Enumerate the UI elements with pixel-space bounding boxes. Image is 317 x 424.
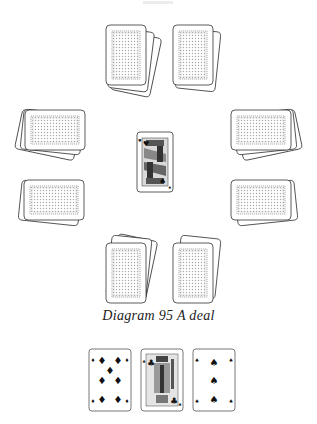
diagram-figure: ♥ ♠ ♥ ♠ ♦ ♦ ♦ ♦ ♦ ♦ ♦ ♦ ♦ ♦ ♦ bbox=[0, 0, 317, 424]
hand-bottom-left bbox=[106, 233, 158, 303]
hand-bottom-right bbox=[173, 235, 221, 303]
svg-text:♠: ♠ bbox=[229, 398, 233, 404]
svg-text:♦: ♦ bbox=[91, 357, 95, 363]
figure-caption: Diagram 95 A deal bbox=[0, 308, 317, 324]
center-face-card: ♥ ♠ ♥ ♠ bbox=[137, 132, 173, 192]
hand-top-left bbox=[106, 25, 162, 98]
svg-text:♦: ♦ bbox=[91, 398, 95, 404]
svg-text:♦: ♦ bbox=[98, 375, 107, 386]
svg-text:♣: ♣ bbox=[178, 402, 182, 407]
svg-text:♦: ♦ bbox=[98, 394, 107, 405]
hand-right-lower bbox=[231, 180, 298, 226]
hand-right-upper bbox=[231, 109, 303, 161]
svg-text:♠: ♠ bbox=[159, 177, 166, 186]
svg-text:♣: ♣ bbox=[147, 358, 155, 368]
card-three-of-spades: ♠ ♠ ♠ ♠ ♠ ♠ ♠ bbox=[193, 349, 235, 411]
svg-text:♠: ♠ bbox=[210, 394, 219, 405]
svg-text:♥: ♥ bbox=[143, 140, 149, 148]
card-jack-of-clubs: ♣ ♣ ♣ ♣ bbox=[141, 349, 183, 411]
hand-left-lower bbox=[18, 180, 84, 226]
svg-text:♥: ♥ bbox=[138, 138, 142, 143]
hand-top-right bbox=[173, 25, 221, 92]
svg-text:♠: ♠ bbox=[210, 357, 219, 368]
svg-text:♦: ♦ bbox=[114, 375, 123, 386]
hand-left-upper bbox=[14, 109, 85, 161]
card-seven-of-diamonds: ♦ ♦ ♦ ♦ ♦ ♦ ♦ ♦ ♦ ♦ ♦ bbox=[89, 349, 131, 411]
svg-text:♦: ♦ bbox=[125, 357, 129, 363]
svg-text:♣: ♣ bbox=[170, 396, 178, 406]
svg-text:♠: ♠ bbox=[195, 398, 199, 404]
svg-text:♠: ♠ bbox=[195, 357, 199, 363]
svg-text:♠: ♠ bbox=[168, 185, 172, 190]
deal-illustration: ♥ ♠ ♥ ♠ ♦ ♦ ♦ ♦ ♦ ♦ ♦ ♦ ♦ ♦ ♦ bbox=[0, 0, 317, 424]
svg-text:♦: ♦ bbox=[125, 398, 129, 404]
svg-text:♠: ♠ bbox=[210, 375, 219, 386]
svg-text:♦: ♦ bbox=[114, 394, 123, 405]
svg-text:♠: ♠ bbox=[229, 357, 233, 363]
svg-text:♦: ♦ bbox=[114, 355, 123, 366]
svg-text:♣: ♣ bbox=[142, 359, 146, 364]
